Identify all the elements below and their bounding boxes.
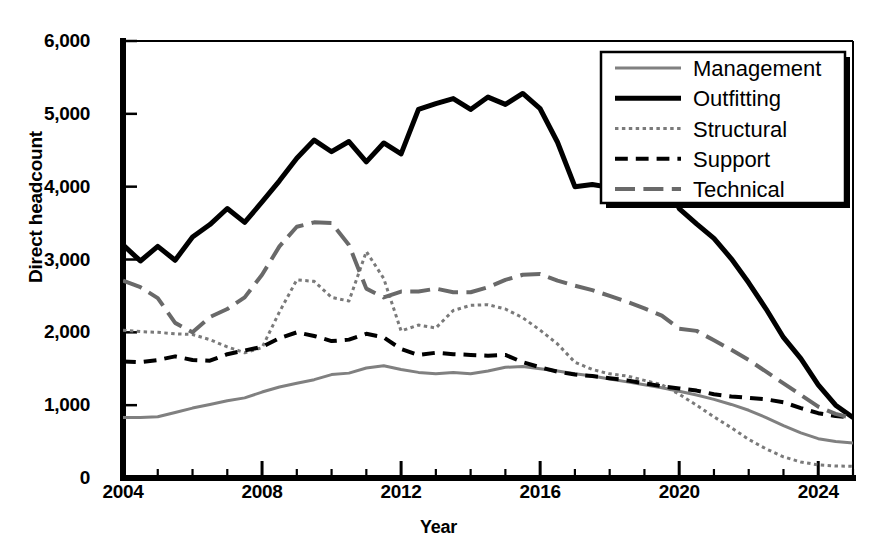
legend-label-outfitting: Outfitting — [693, 86, 781, 111]
legend-label-management: Management — [693, 56, 821, 81]
legend-label-support: Support — [693, 147, 770, 172]
chart-root: Direct headcount Year 01,0002,0003,0004,… — [0, 0, 877, 560]
legend-label-structural: Structural — [693, 117, 787, 142]
legend-label-technical: Technical — [693, 177, 785, 202]
chart-plot-area: ManagementOutfittingStructuralSupportTec… — [0, 0, 877, 560]
series-line-support — [123, 332, 853, 417]
series-line-management — [123, 366, 853, 443]
chart-legend: ManagementOutfittingStructuralSupportTec… — [601, 52, 850, 208]
series-line-technical — [123, 222, 853, 418]
